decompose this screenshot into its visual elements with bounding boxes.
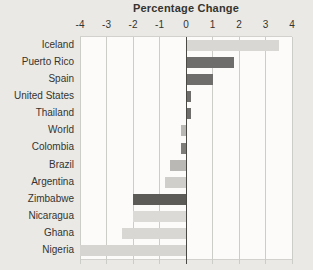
chart-title: Percentage Change — [80, 2, 292, 16]
x-axis-tick-label: 3 — [263, 17, 269, 32]
gridline — [106, 37, 107, 264]
category-label: Colombia — [0, 138, 74, 155]
x-axis-tick-label: 2 — [236, 17, 242, 32]
category-label: Puerto Rico — [0, 53, 74, 70]
bar — [122, 228, 186, 239]
category-label: Argentina — [0, 173, 74, 190]
x-axis-tick-label: 4 — [289, 17, 295, 32]
x-axis-tick-label: 0 — [183, 17, 189, 32]
category-label: United States — [0, 87, 74, 104]
category-label: World — [0, 121, 74, 138]
x-axis-tick-label: -1 — [155, 17, 164, 32]
x-axis-tick-label: 1 — [210, 17, 216, 32]
x-axis-tick-label: -3 — [102, 17, 111, 32]
bar — [186, 108, 191, 119]
plot-area — [80, 36, 292, 260]
bar — [80, 245, 186, 256]
category-label: Nicaragua — [0, 207, 74, 224]
category-label: Zimbabwe — [0, 190, 74, 207]
category-label: Ghana — [0, 224, 74, 241]
bar — [186, 40, 279, 51]
bar — [186, 74, 213, 85]
bar — [186, 91, 191, 102]
gridline — [239, 37, 240, 264]
bar — [165, 177, 186, 188]
category-label: Thailand — [0, 104, 74, 121]
gridline — [212, 37, 213, 264]
bar — [186, 57, 234, 68]
x-axis: -4-3-2-101234 — [80, 17, 292, 32]
bar — [133, 194, 186, 205]
zero-axis-line — [186, 37, 187, 264]
category-label: Spain — [0, 70, 74, 87]
bar — [133, 211, 186, 222]
bar-chart: Percentage Change -4-3-2-101234 IcelandP… — [0, 0, 313, 270]
gridline — [80, 37, 81, 264]
category-labels: IcelandPuerto RicoSpainUnited StatesThai… — [0, 36, 74, 258]
x-axis-tick-label: -2 — [129, 17, 138, 32]
category-label: Nigeria — [0, 241, 74, 258]
category-label: Iceland — [0, 36, 74, 53]
gridline — [265, 37, 266, 264]
category-label: Brazil — [0, 156, 74, 173]
gridline — [292, 37, 293, 264]
bar — [170, 160, 186, 171]
x-axis-tick-label: -4 — [76, 17, 85, 32]
